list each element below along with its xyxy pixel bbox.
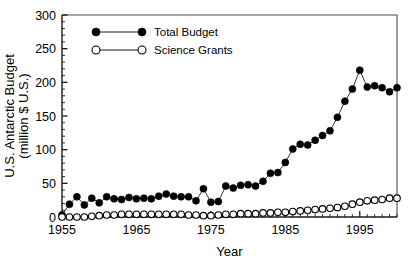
data-point xyxy=(111,195,118,202)
y-axis-title-line2: (million $ U.S.) xyxy=(16,73,31,158)
data-point xyxy=(178,193,185,200)
data-point xyxy=(133,211,140,218)
legend-marker-left xyxy=(92,46,100,54)
data-point xyxy=(155,211,162,218)
x-tick-label: 1985 xyxy=(271,223,299,237)
data-point xyxy=(222,183,229,190)
data-point xyxy=(312,137,319,144)
data-point xyxy=(66,214,73,221)
data-point xyxy=(364,198,371,205)
data-point xyxy=(81,214,88,221)
data-point xyxy=(327,127,334,134)
data-point xyxy=(185,193,192,200)
antarctic-budget-chart: 05010015020025030019551965197519851995To… xyxy=(0,0,410,262)
data-point xyxy=(126,194,133,201)
legend-label: Science Grants xyxy=(154,44,233,56)
data-point xyxy=(215,198,222,205)
y-tick-label: 50 xyxy=(42,177,56,191)
data-point xyxy=(349,201,356,208)
y-tick-label: 150 xyxy=(35,110,56,124)
x-tick-label: 1965 xyxy=(123,223,151,237)
x-tick-label: 1955 xyxy=(48,223,76,237)
y-tick-label: 250 xyxy=(35,42,56,56)
data-point xyxy=(103,193,110,200)
data-point xyxy=(371,197,378,204)
data-point xyxy=(319,206,326,213)
data-point xyxy=(230,185,237,192)
chart-figure: 05010015020025030019551965197519851995To… xyxy=(0,0,410,262)
data-point xyxy=(349,86,356,93)
data-point xyxy=(118,196,125,203)
data-point xyxy=(356,67,363,74)
data-point xyxy=(304,141,311,148)
data-point xyxy=(304,207,311,214)
data-point xyxy=(103,212,110,219)
data-point xyxy=(282,209,289,216)
data-point xyxy=(379,84,386,91)
data-point xyxy=(371,82,378,89)
data-point xyxy=(88,213,95,220)
data-point xyxy=(118,211,125,218)
data-point xyxy=(163,211,170,218)
data-point xyxy=(282,159,289,166)
data-point xyxy=(73,193,80,200)
data-point xyxy=(170,193,177,200)
data-point xyxy=(200,212,207,219)
data-point xyxy=(200,185,207,192)
legend-marker-right xyxy=(138,46,146,54)
data-point xyxy=(59,214,66,221)
data-point xyxy=(111,212,118,219)
legend-marker-right xyxy=(138,28,146,36)
legend-label: Total Budget xyxy=(154,26,219,38)
data-point xyxy=(342,203,349,210)
data-point xyxy=(327,205,334,212)
data-point xyxy=(394,84,401,91)
series-total-budget xyxy=(59,67,401,219)
data-point xyxy=(364,84,371,91)
data-point xyxy=(230,211,237,218)
data-point xyxy=(140,195,147,202)
data-point xyxy=(126,211,133,218)
data-point xyxy=(133,195,140,202)
data-point xyxy=(297,208,304,215)
x-axis-title: Year xyxy=(216,244,243,259)
data-point xyxy=(148,211,155,218)
data-point xyxy=(178,211,185,218)
data-point xyxy=(193,197,200,204)
data-point xyxy=(222,211,229,218)
data-point xyxy=(245,181,252,188)
data-point xyxy=(141,211,148,218)
data-point xyxy=(252,183,259,190)
legend-marker-left xyxy=(92,28,100,36)
data-point xyxy=(193,212,200,219)
data-point xyxy=(274,169,281,176)
data-point xyxy=(81,201,88,208)
data-point xyxy=(237,182,244,189)
data-series-group xyxy=(59,67,401,221)
data-point xyxy=(185,212,192,219)
data-point xyxy=(163,191,170,198)
data-point xyxy=(394,195,401,202)
data-point xyxy=(155,193,162,200)
y-tick-label: 100 xyxy=(35,143,56,157)
data-point xyxy=(289,145,296,152)
data-point xyxy=(312,206,319,213)
data-point xyxy=(341,98,348,105)
data-point xyxy=(260,178,267,185)
data-point xyxy=(252,210,259,217)
data-point xyxy=(267,170,274,177)
data-point xyxy=(96,199,103,206)
x-tick-label: 1975 xyxy=(197,223,225,237)
data-point xyxy=(207,199,214,206)
data-point xyxy=(96,212,103,219)
data-point xyxy=(386,88,393,95)
data-point xyxy=(275,209,282,216)
y-axis-title-line1: U.S. Antarctic Budget xyxy=(2,54,17,178)
data-point xyxy=(74,214,81,221)
data-point xyxy=(267,210,274,217)
data-point xyxy=(297,141,304,148)
x-tick-label: 1995 xyxy=(346,223,374,237)
y-tick-label: 200 xyxy=(35,76,56,90)
data-point xyxy=(237,210,244,217)
series-line xyxy=(62,70,397,215)
